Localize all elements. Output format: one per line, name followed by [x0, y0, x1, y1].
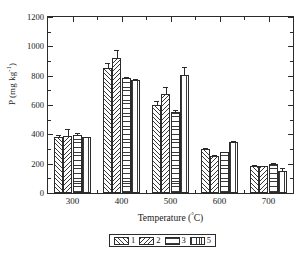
y-axis-minor-tick: [48, 120, 51, 121]
y-axis-tick: [288, 76, 293, 77]
error-bar-cap-2-500: [163, 87, 168, 88]
y-axis-tick-label: 0: [40, 189, 44, 198]
legend-item-5[interactable]: 5: [190, 236, 211, 245]
error-bar-cap-5-700: [280, 168, 285, 169]
x-axis-tick-label: 300: [66, 197, 80, 206]
x-axis-tick-label: 400: [115, 197, 129, 206]
x-axis-tick: [220, 17, 221, 22]
y-axis-minor-tick: [290, 32, 293, 33]
bar-series-1-600: [201, 149, 210, 193]
error-bar-cap-3-400: [124, 77, 129, 78]
bar-series-3-500: [171, 112, 180, 193]
error-bar-cap-5-400: [133, 79, 138, 80]
bar-series-1-700: [250, 166, 259, 193]
y-axis-minor-tick: [290, 178, 293, 179]
x-axis-minor-tick: [146, 17, 147, 20]
bar-series-3-300: [73, 135, 82, 193]
error-bar-cap-5-300: [84, 137, 89, 138]
y-axis-tick: [288, 164, 293, 165]
error-bar-cap-1-400: [105, 63, 110, 64]
y-axis-tick: [48, 134, 53, 135]
error-bar-cap-2-600: [212, 155, 217, 156]
bar-series-2-700: [259, 166, 268, 193]
bar-series-5-500: [180, 75, 189, 193]
x-axis-tick-label: 600: [213, 197, 227, 206]
bar-series-3-400: [122, 78, 131, 193]
y-axis-tick: [48, 164, 53, 165]
bar-series-2-400: [112, 58, 121, 193]
x-axis-minor-tick: [195, 190, 196, 193]
bar-series-5-700: [278, 171, 287, 193]
error-bar-cap-5-500: [182, 67, 187, 68]
y-axis-tick-label: 200: [31, 159, 44, 168]
y-axis-minor-tick: [48, 178, 51, 179]
y-axis-title-exponent: -1: [5, 66, 12, 72]
legend-item-3[interactable]: 3: [165, 236, 186, 245]
error-bar-cap-1-600: [203, 148, 208, 149]
x-axis-tick: [171, 17, 172, 22]
x-axis-tick: [269, 17, 270, 22]
y-axis-minor-tick: [48, 90, 51, 91]
y-axis-tick-label: 800: [31, 71, 44, 80]
legend-item-1[interactable]: 1: [114, 236, 135, 245]
bar-series-2-500: [161, 94, 170, 193]
y-axis-minor-tick: [290, 120, 293, 121]
y-axis-title-tail: ): [7, 63, 17, 66]
x-axis-tick-label: 500: [164, 197, 178, 206]
chart-legend: 1235: [109, 234, 216, 247]
legend-swatch-diagonal-back-icon: [139, 237, 154, 245]
bar-series-1-500: [152, 105, 161, 193]
error-bar-cap-2-400: [114, 50, 119, 51]
bar-series-3-700: [269, 164, 278, 193]
legend-swatch-horizontal-icon: [165, 237, 180, 245]
y-axis-tick-label: 1200: [27, 13, 44, 22]
x-axis-minor-tick: [195, 17, 196, 20]
legend-label: 5: [207, 236, 211, 245]
y-axis-tick-label: 400: [31, 130, 44, 139]
x-axis-title: Temperature (°C): [47, 211, 294, 223]
legend-label: 3: [182, 236, 186, 245]
y-axis-tick: [48, 193, 53, 194]
bar-series-2-600: [210, 156, 219, 193]
bar-series-1-300: [54, 137, 63, 193]
bar-series-3-600: [220, 152, 229, 193]
error-bar-2-400: [117, 50, 118, 58]
x-axis-tick: [122, 17, 123, 22]
x-axis-tick-label: 700: [262, 197, 276, 206]
y-axis-title-main: P (mg kg: [7, 72, 17, 105]
y-axis-minor-tick: [48, 149, 51, 150]
y-axis-minor-tick: [290, 90, 293, 91]
bar-series-5-600: [229, 142, 238, 193]
x-axis-minor-tick: [97, 190, 98, 193]
y-axis-tick: [288, 193, 293, 194]
y-axis-tick: [48, 76, 53, 77]
legend-label: 1: [131, 236, 135, 245]
x-axis-minor-tick: [244, 17, 245, 20]
error-bar-cap-1-300: [56, 135, 61, 136]
legend-swatch-vertical-icon: [190, 237, 205, 245]
y-axis-tick: [288, 105, 293, 106]
error-bar-cap-3-300: [75, 133, 80, 134]
y-axis-tick: [288, 46, 293, 47]
plot-inner: 020040060080010001200300400500600700: [48, 17, 293, 193]
error-bar-cap-2-300: [65, 129, 70, 130]
y-axis-tick: [48, 105, 53, 106]
x-axis-title-tail: C): [194, 213, 204, 223]
y-axis-tick-label: 600: [31, 101, 44, 110]
y-axis-tick: [288, 17, 293, 18]
y-axis-minor-tick: [290, 149, 293, 150]
error-bar-cap-1-500: [154, 101, 159, 102]
legend-item-2[interactable]: 2: [139, 236, 160, 245]
error-bar-cap-5-600: [231, 141, 236, 142]
plot-area: 020040060080010001200300400500600700: [47, 16, 294, 194]
error-bar-cap-3-500: [173, 110, 178, 111]
y-axis-tick: [48, 17, 53, 18]
error-bar-5-500: [184, 67, 185, 75]
x-axis-minor-tick: [146, 190, 147, 193]
y-axis-tick: [288, 134, 293, 135]
y-axis-tick: [48, 46, 53, 47]
x-axis-minor-tick: [97, 17, 98, 20]
y-axis-minor-tick: [290, 61, 293, 62]
y-axis-minor-tick: [48, 61, 51, 62]
y-axis-tick-label: 1000: [27, 42, 44, 51]
